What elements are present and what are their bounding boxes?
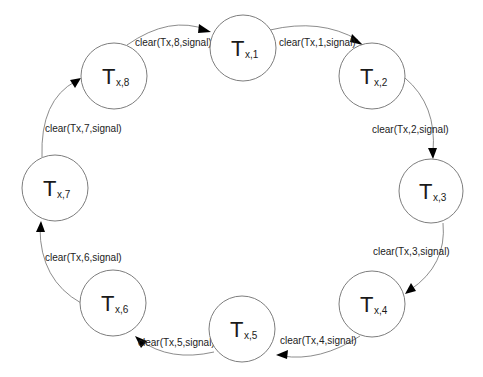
svg-text:x,4: x,4 — [374, 305, 388, 316]
svg-text:x,7: x,7 — [57, 189, 71, 200]
svg-text:T: T — [101, 291, 114, 316]
state-cycle-diagram: clear(Tx,8,signal) clear(Tx,1,signal) cl… — [0, 0, 483, 377]
transition-label: clear(Tx,5,signal) — [138, 337, 215, 348]
transition-1-to-2: clear(Tx,1,signal) — [270, 26, 363, 48]
svg-text:T: T — [43, 176, 56, 201]
transition-label: clear(Tx,6,signal) — [45, 252, 122, 263]
svg-text:x,6: x,6 — [115, 304, 129, 315]
transition-label: clear(Tx,2,signal) — [372, 124, 449, 135]
svg-text:T: T — [360, 292, 373, 317]
svg-text:T: T — [419, 179, 432, 204]
state-node-x3: T x,3 — [399, 159, 463, 223]
svg-text:T: T — [102, 64, 115, 89]
arrowhead-icon — [36, 221, 45, 232]
transition-label: clear(Tx,1,signal) — [279, 37, 356, 48]
svg-text:T: T — [360, 64, 373, 89]
svg-text:T: T — [230, 317, 243, 342]
arrowhead-icon — [198, 24, 211, 33]
svg-text:T: T — [231, 36, 244, 61]
state-node-x8: T x,8 — [81, 43, 147, 109]
arrowhead-icon — [70, 78, 81, 88]
transition-8-to-1: clear(Tx,8,signal) — [127, 24, 212, 48]
svg-text:x,8: x,8 — [116, 77, 130, 88]
arrowhead-icon — [405, 283, 416, 294]
transition-label: clear(Tx,8,signal) — [135, 37, 212, 48]
transition-4-to-5: clear(Tx,4,signal) — [276, 335, 360, 359]
arrowhead-icon — [428, 148, 437, 159]
state-node-x1: T x,1 — [210, 15, 276, 81]
transition-label: clear(Tx,4,signal) — [280, 335, 357, 346]
arrowhead-icon — [276, 350, 288, 359]
svg-text:x,5: x,5 — [244, 330, 258, 341]
state-node-x2: T x,2 — [339, 43, 405, 109]
svg-text:x,3: x,3 — [433, 192, 447, 203]
transition-label: clear(Tx,3,signal) — [373, 246, 450, 257]
state-node-x6: T x,6 — [80, 270, 146, 336]
svg-text:x,2: x,2 — [374, 77, 388, 88]
state-node-x4: T x,4 — [339, 271, 405, 337]
transition-label: clear(Tx,7,signal) — [45, 123, 122, 134]
state-node-x5: T x,5 — [209, 296, 275, 362]
transition-5-to-6: clear(Tx,5,signal) — [135, 336, 215, 355]
svg-text:x,1: x,1 — [245, 49, 259, 60]
state-node-x7: T x,7 — [22, 155, 88, 221]
